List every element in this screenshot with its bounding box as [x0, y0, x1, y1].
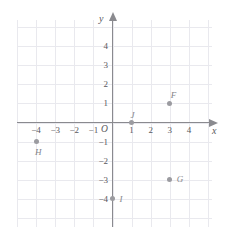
- x-axis: [17, 122, 209, 123]
- x-axis-tick-label: −1: [85, 125, 101, 135]
- y-axis-tick-label: −2: [92, 156, 108, 166]
- y-axis-label: y: [99, 14, 103, 24]
- x-axis-tick-label: 3: [162, 125, 178, 135]
- data-point-i: [110, 196, 115, 201]
- x-axis-tick-label: −2: [66, 125, 82, 135]
- data-point-label-j: J: [131, 111, 135, 120]
- origin-label: O: [101, 124, 108, 134]
- y-axis-tick-label: 2: [92, 79, 108, 89]
- grid-line-horizontal: [17, 142, 212, 143]
- data-point-label-i: I: [120, 195, 123, 204]
- data-point-label-f: F: [171, 91, 177, 100]
- x-axis-tick-label: 4: [181, 125, 197, 135]
- data-point-label-g: G: [177, 175, 184, 184]
- y-axis-tick-label: −3: [92, 175, 108, 185]
- y-axis-tick-label: 4: [92, 41, 108, 51]
- grid-line-horizontal: [17, 218, 212, 219]
- coordinate-plane: y x O −4−3−2−112344321−1−2−3−4 FGHIJ: [0, 0, 230, 246]
- x-axis-tick-label: −4: [28, 125, 44, 135]
- y-axis-tick-label: −1: [92, 137, 108, 147]
- grid-line-horizontal: [17, 46, 212, 47]
- y-axis-tick-label: 3: [92, 60, 108, 70]
- y-axis-tick-label: 1: [92, 98, 108, 108]
- data-point-label-h: H: [35, 148, 42, 157]
- y-axis-tick-label: −4: [92, 194, 108, 204]
- grid-line-horizontal: [17, 84, 212, 85]
- data-point-f: [167, 101, 172, 106]
- x-axis-tick-label: −3: [47, 125, 63, 135]
- data-point-g: [167, 177, 172, 182]
- data-point-h: [34, 139, 39, 144]
- grid-line-horizontal: [17, 65, 212, 66]
- x-axis-tick-label: 1: [124, 125, 140, 135]
- grid-line-horizontal: [17, 27, 212, 28]
- grid-line-horizontal: [17, 161, 212, 162]
- x-axis-tick-label: 2: [143, 125, 159, 135]
- x-axis-label: x: [212, 126, 216, 136]
- y-axis-arrowhead: [109, 12, 117, 21]
- grid-line-horizontal: [17, 123, 212, 124]
- grid-line-horizontal: [17, 103, 212, 104]
